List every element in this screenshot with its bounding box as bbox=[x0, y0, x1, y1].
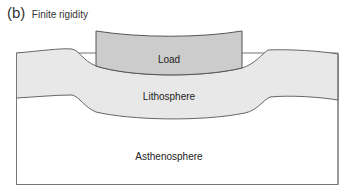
lithosphere-label: Lithosphere bbox=[143, 91, 195, 102]
asthenosphere-label: Asthenosphere bbox=[135, 151, 202, 162]
load-label: Load bbox=[158, 54, 180, 65]
load-block bbox=[96, 31, 242, 75]
